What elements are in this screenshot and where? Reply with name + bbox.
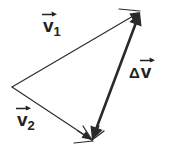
vector-delta-v-feather-a [78,131,92,140]
v2-subscript: 2 [28,119,35,132]
v2-base-letter: v [17,110,28,129]
base-tick-mark [74,141,93,143]
v1-subscript: 1 [54,25,61,38]
v1-glyph: v1 [43,16,61,38]
delta-v-base-letter: v [141,62,152,81]
vector-label-v1: v1 [43,16,61,38]
vector-v1 [12,12,140,87]
vector-label-v2: v2 [17,110,35,132]
vector-diagram-figure: v1 v2 Δ v [0,0,169,152]
apex-tick-mark [119,9,140,11]
delta-symbol: Δ [129,65,140,80]
vector-label-delta-v: Δ v [129,62,151,81]
v1-base-letter: v [43,16,54,35]
vector-v1-shaft [12,14,137,87]
delta-v-glyph: v [141,62,152,81]
v2-glyph: v2 [17,110,35,132]
